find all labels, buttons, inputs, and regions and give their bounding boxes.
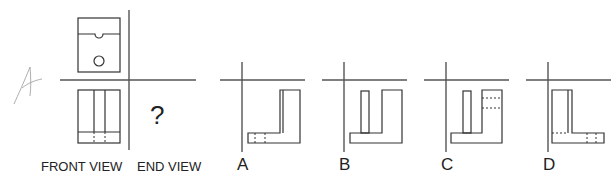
handwritten-mark — [14, 67, 42, 104]
top-view-drawing — [78, 18, 120, 72]
reference-axes — [60, 10, 196, 150]
option-d-drawing[interactable] — [526, 62, 611, 152]
front-view-drawing — [78, 90, 120, 143]
option-c-drawing[interactable] — [424, 62, 509, 152]
option-a-drawing[interactable] — [220, 62, 305, 152]
option-a-label[interactable]: A — [237, 155, 248, 175]
end-view-label: END VIEW — [137, 159, 201, 174]
front-view-label: FRONT VIEW — [41, 159, 122, 174]
orthographic-views-diagram — [0, 0, 616, 184]
option-b-label[interactable]: B — [339, 155, 350, 175]
unknown-end-view-question-mark: ? — [150, 100, 164, 131]
option-c-label[interactable]: C — [441, 155, 453, 175]
option-d-label[interactable]: D — [543, 155, 555, 175]
option-b-drawing[interactable] — [322, 62, 407, 152]
